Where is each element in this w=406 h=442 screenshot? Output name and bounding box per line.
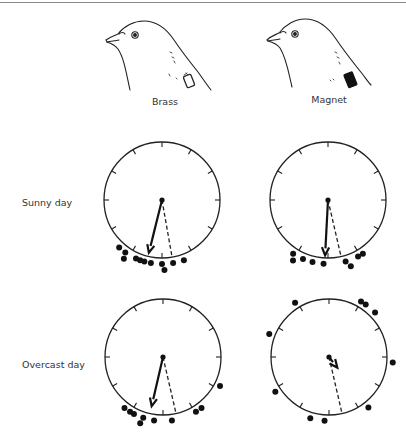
tick-mark xyxy=(299,150,302,154)
tick-mark xyxy=(356,307,359,311)
tick-mark xyxy=(190,403,193,407)
tick-mark xyxy=(209,328,213,331)
bearing-dot xyxy=(217,383,223,389)
center-dot xyxy=(325,197,330,202)
bearing-dot xyxy=(348,263,354,269)
tick-mark xyxy=(134,403,137,407)
bearing-dot xyxy=(300,256,306,262)
tick-mark xyxy=(300,307,303,311)
tick-mark xyxy=(133,150,136,154)
bearing-dot xyxy=(131,411,137,417)
bearing-dot xyxy=(116,245,122,251)
bearing-dot xyxy=(121,256,127,262)
row-label-sunny: Sunny day xyxy=(22,197,72,208)
center-dot xyxy=(159,197,164,202)
tick-mark xyxy=(278,171,282,174)
tick-mark xyxy=(208,227,212,230)
bearing-dot xyxy=(307,415,313,421)
bearing-dot xyxy=(161,267,167,273)
bearing-dot xyxy=(122,249,128,255)
tick-mark xyxy=(190,307,193,311)
tick-mark xyxy=(279,384,283,387)
tick-mark xyxy=(134,307,137,311)
tick-mark xyxy=(374,227,378,230)
tick-mark xyxy=(356,403,359,407)
mean-vector-arrow xyxy=(153,357,163,399)
home-direction-line xyxy=(163,357,176,414)
mean-vector-arrow xyxy=(151,200,162,246)
bearing-dot xyxy=(310,259,316,265)
bearing-dot xyxy=(290,258,296,264)
center-dot xyxy=(326,354,331,359)
bearing-dot xyxy=(151,417,157,423)
tick-mark xyxy=(112,227,116,230)
pigeon-brass-illustration xyxy=(106,21,211,90)
tick-mark xyxy=(112,171,116,174)
mean-vector-arrow xyxy=(325,200,328,248)
bearing-dot xyxy=(292,300,298,306)
tick-mark xyxy=(133,246,136,250)
tick-mark xyxy=(189,150,192,154)
bearing-dot xyxy=(321,261,327,267)
bearing-dot xyxy=(272,389,278,395)
bearing-dot xyxy=(121,405,127,411)
tick-mark xyxy=(113,328,117,331)
tick-mark xyxy=(374,171,378,174)
tick-mark xyxy=(300,403,303,407)
bearing-dot xyxy=(290,251,296,257)
bearing-dot xyxy=(343,259,349,265)
bearing-dot xyxy=(137,420,143,426)
pigeon-magnet-illustration xyxy=(267,19,371,88)
figure-canvas xyxy=(0,0,406,442)
bearing-dot xyxy=(159,261,165,267)
center-dot xyxy=(160,354,165,359)
tick-mark xyxy=(189,246,192,250)
circular-plot-magnet-sunny-day xyxy=(270,142,386,269)
tick-mark xyxy=(208,171,212,174)
bearing-dot xyxy=(372,310,378,316)
tick-mark xyxy=(278,227,282,230)
tick-mark xyxy=(355,246,358,250)
bearing-dot xyxy=(390,360,396,366)
bearing-dot xyxy=(199,405,205,411)
bearing-dot xyxy=(141,259,147,265)
circular-plot-brass-sunny-day xyxy=(104,142,220,273)
circular-plot-brass-overcast-day xyxy=(105,299,223,426)
tick-mark xyxy=(279,328,283,331)
bearing-dot xyxy=(193,409,199,415)
column-label-brass: Brass xyxy=(152,96,178,107)
tick-mark xyxy=(299,246,302,250)
bearing-dot xyxy=(360,251,366,257)
tick-mark xyxy=(113,384,117,387)
tick-mark xyxy=(375,328,379,331)
row-label-overcast: Overcast day xyxy=(22,359,85,370)
tick-mark xyxy=(209,384,213,387)
bearing-dot xyxy=(181,257,187,263)
bearing-dot xyxy=(322,418,328,424)
column-label-magnet: Magnet xyxy=(311,94,347,105)
bearing-dot xyxy=(365,404,371,410)
bearing-dot xyxy=(170,260,176,266)
tick-mark xyxy=(375,384,379,387)
bearing-dot xyxy=(148,260,154,266)
bearing-dot xyxy=(266,331,272,337)
bearing-dot xyxy=(363,302,369,308)
bearing-dot xyxy=(140,415,146,421)
home-direction-line xyxy=(162,200,172,257)
bearing-dot xyxy=(169,417,175,423)
tick-mark xyxy=(355,150,358,154)
circular-plot-magnet-overcast-day xyxy=(266,299,396,424)
